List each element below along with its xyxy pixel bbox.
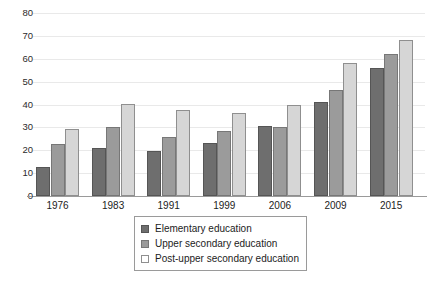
x-tick-label-2015: 2015 [371, 200, 411, 212]
bar-1976-series-0 [36, 167, 50, 196]
bar-1983-series-2 [121, 104, 135, 196]
x-tick-label-1999: 1999 [204, 200, 244, 212]
bar-1991-series-2 [176, 110, 190, 196]
x-tick-label-2006: 2006 [260, 200, 300, 212]
bar-2015-series-2 [399, 40, 413, 196]
legend-item-upper-secondary-education[interactable]: Upper secondary education [141, 236, 299, 251]
legend-item-elementary-education[interactable]: Elementary education [141, 221, 299, 236]
legend-label-series-1: Upper secondary education [155, 238, 277, 250]
bar-2009-series-2 [343, 63, 357, 196]
bar-2006-series-0 [258, 126, 272, 196]
bar-2015-series-0 [370, 68, 384, 196]
legend-label-series-2: Post-upper secondary education [155, 253, 299, 265]
bar-2015-series-1 [384, 54, 398, 196]
bar-1999-series-2 [232, 113, 246, 196]
bar-2006-series-1 [273, 127, 287, 196]
bar-1999-series-0 [203, 143, 217, 196]
bar-1991-series-1 [162, 137, 176, 196]
x-tick-label-1991: 1991 [149, 200, 189, 212]
x-tick-label-1976: 1976 [38, 200, 78, 212]
bar-1999-series-1 [217, 131, 231, 196]
legend-swatch-icon-series-2 [141, 255, 149, 263]
x-tick-label-2009: 2009 [316, 200, 356, 212]
bar-1976-series-2 [65, 129, 79, 196]
bar-1991-series-0 [147, 151, 161, 196]
legend-item-post-upper-secondary-education[interactable]: Post-upper secondary education [141, 251, 299, 266]
bar-1976-series-1 [51, 144, 65, 196]
bar-chart: 80 70 60 50 40 30 20 10 0 19761983199119… [0, 0, 435, 288]
x-tick-label-1983: 1983 [93, 200, 133, 212]
bar-1983-series-1 [106, 127, 120, 196]
bar-2009-series-0 [314, 102, 328, 196]
legend-label-series-0: Elementary education [155, 223, 252, 235]
legend-swatch-icon-series-1 [141, 240, 149, 248]
bar-1983-series-0 [92, 148, 106, 196]
bar-2006-series-2 [287, 105, 301, 197]
bar-2009-series-1 [329, 90, 343, 196]
legend-swatch-icon-series-0 [141, 225, 149, 233]
legend: Elementary education Upper secondary edu… [134, 216, 307, 271]
